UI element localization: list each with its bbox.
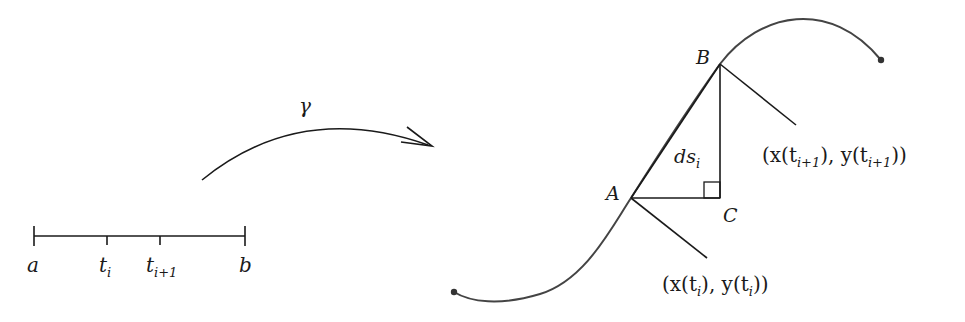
label-point-c: C (723, 204, 738, 226)
label-point-b: B (695, 46, 710, 68)
curve-end-dot (878, 57, 884, 63)
label-gamma: γ (299, 94, 311, 118)
gamma-mapping-arrow: γ (202, 94, 432, 180)
label-t-i-plus-1: ti+1 (146, 253, 177, 280)
label-point-a: A (604, 182, 620, 204)
arrowhead-icon (401, 127, 432, 146)
leader-line-b (720, 64, 796, 125)
label-b: b (239, 253, 252, 277)
parameter-interval: a b ti ti+1 (27, 226, 252, 280)
label-coord-t-i: (x(ti), y(ti)) (662, 272, 769, 299)
hypotenuse-ab (631, 64, 720, 198)
right-angle-marker (704, 182, 720, 198)
mapping-arc (202, 129, 428, 180)
label-a: a (27, 253, 39, 277)
coordinate-annotations: (x(ti+1), y(ti+1)) (x(ti), y(ti)) (631, 64, 907, 299)
label-t-i: ti (99, 253, 111, 280)
label-coord-t-i-plus-1: (x(ti+1), y(ti+1)) (762, 143, 907, 170)
leader-line-a (631, 198, 707, 258)
label-ds-i: dsi (674, 145, 700, 171)
arc-length-diagram: a b ti ti+1 γ A B C dsi (x(ti+1), y(ti+1… (0, 0, 965, 322)
curve-start-dot (451, 289, 457, 295)
